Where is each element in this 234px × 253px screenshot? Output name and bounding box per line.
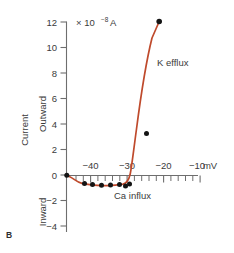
data-point [108, 183, 113, 188]
data-point [127, 182, 132, 187]
y-tick-label-8: 8 [52, 68, 57, 79]
y-axis-title-outward: Outward [37, 96, 48, 132]
y-tick-label-4: 4 [52, 119, 57, 130]
y-axis-title-inward: Inward [37, 198, 48, 227]
current-voltage-chart: 12 10 8 6 4 2 0 −2 −4 × 10 −8 A Current … [0, 0, 234, 253]
x-tick-label-neg20: −20 [156, 160, 172, 171]
data-point [156, 19, 162, 25]
data-point [99, 183, 104, 188]
y-tick-label-0: 0 [52, 170, 57, 181]
annotation-k-efflux: K efflux [157, 57, 189, 68]
x-tick-label-neg40: −40 [83, 160, 99, 171]
y-units-exponent: −8 [101, 16, 109, 23]
y-tick-label-12: 12 [46, 17, 57, 28]
y-axis-title-current: Current [19, 114, 30, 146]
chart-background [0, 0, 234, 253]
figure-panel-b: 12 10 8 6 4 2 0 −2 −4 × 10 −8 A Current … [0, 0, 234, 253]
y-units-prefix: × 10 [76, 17, 95, 28]
data-point [117, 182, 122, 187]
y-tick-label-6: 6 [52, 93, 57, 104]
data-point [82, 181, 87, 186]
y-tick-label-10: 10 [46, 42, 57, 53]
y-units-suffix: A [110, 17, 117, 28]
annotation-ca-influx: Ca influx [114, 190, 151, 201]
data-point [64, 173, 69, 178]
data-point [144, 131, 149, 136]
panel-label-b: B [6, 230, 12, 240]
y-tick-label-2: 2 [52, 144, 57, 155]
x-axis-units-mv: mV [203, 160, 218, 171]
data-point [90, 182, 95, 187]
